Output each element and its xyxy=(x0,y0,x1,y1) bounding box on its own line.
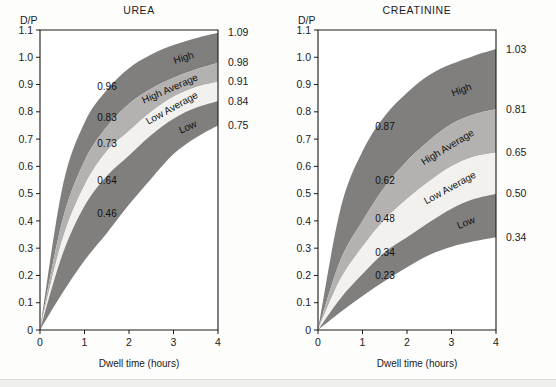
page-bottom-strip xyxy=(0,379,556,387)
svg-text:0.2: 0.2 xyxy=(18,269,33,281)
svg-text:0.8: 0.8 xyxy=(18,105,33,117)
chart-panel-creatinine: CREATININE D/P 1.11.00.90.80.70.60.50.40… xyxy=(278,0,556,386)
x-axis-title-urea: Dwell time (hours) xyxy=(0,358,278,369)
svg-text:0.6: 0.6 xyxy=(18,160,33,172)
svg-text:0.9: 0.9 xyxy=(18,78,33,90)
svg-text:0.75: 0.75 xyxy=(228,119,249,131)
svg-text:0.3: 0.3 xyxy=(296,242,311,254)
svg-text:1.1: 1.1 xyxy=(18,24,33,36)
svg-text:0.8: 0.8 xyxy=(296,105,311,117)
x-axis-title-creatinine: Dwell time (hours) xyxy=(278,358,556,369)
svg-text:3: 3 xyxy=(171,336,177,348)
svg-text:2: 2 xyxy=(404,336,410,348)
svg-text:0.4: 0.4 xyxy=(18,215,33,227)
svg-text:0.7: 0.7 xyxy=(18,133,33,145)
svg-text:0.6: 0.6 xyxy=(296,160,311,172)
svg-text:1: 1 xyxy=(82,336,88,348)
svg-text:0.50: 0.50 xyxy=(506,187,527,199)
svg-text:1.03: 1.03 xyxy=(506,43,527,55)
svg-text:0.34: 0.34 xyxy=(506,231,527,243)
svg-text:0: 0 xyxy=(37,336,43,348)
svg-text:0.96: 0.96 xyxy=(97,81,117,92)
svg-text:0.7: 0.7 xyxy=(296,133,311,145)
svg-text:0.4: 0.4 xyxy=(296,215,311,227)
chart-panel-urea: UREA D/P 1.11.00.90.80.70.60.50.40.30.20… xyxy=(0,0,278,386)
plot-area-creatinine: 1.11.00.90.80.70.60.50.40.30.20.10012341… xyxy=(278,0,556,386)
svg-text:0.62: 0.62 xyxy=(375,175,395,186)
svg-text:0.83: 0.83 xyxy=(97,112,117,123)
svg-text:0: 0 xyxy=(305,324,311,336)
svg-text:1.0: 1.0 xyxy=(296,51,311,63)
svg-text:0.87: 0.87 xyxy=(375,121,395,132)
svg-text:0.23: 0.23 xyxy=(375,270,395,281)
svg-text:0.81: 0.81 xyxy=(506,103,527,115)
svg-text:1.09: 1.09 xyxy=(228,26,249,38)
svg-text:0.84: 0.84 xyxy=(228,95,249,107)
svg-text:4: 4 xyxy=(493,336,499,348)
svg-text:0: 0 xyxy=(315,336,321,348)
svg-text:0.64: 0.64 xyxy=(97,175,117,186)
svg-text:0.34: 0.34 xyxy=(375,247,395,258)
svg-text:4: 4 xyxy=(215,336,221,348)
svg-text:0.46: 0.46 xyxy=(97,208,117,219)
svg-text:1.1: 1.1 xyxy=(296,24,311,36)
svg-text:0.9: 0.9 xyxy=(296,78,311,90)
svg-text:3: 3 xyxy=(449,336,455,348)
svg-text:2: 2 xyxy=(126,336,132,348)
svg-text:0: 0 xyxy=(27,324,33,336)
svg-text:1: 1 xyxy=(360,336,366,348)
svg-text:0.1: 0.1 xyxy=(18,296,33,308)
svg-text:0.1: 0.1 xyxy=(296,296,311,308)
svg-text:0.5: 0.5 xyxy=(296,187,311,199)
svg-text:0.48: 0.48 xyxy=(375,213,395,224)
svg-text:0.65: 0.65 xyxy=(506,146,527,158)
svg-text:0.73: 0.73 xyxy=(97,138,117,149)
svg-text:0.2: 0.2 xyxy=(296,269,311,281)
svg-text:0.3: 0.3 xyxy=(18,242,33,254)
svg-text:0.5: 0.5 xyxy=(18,187,33,199)
svg-text:0.98: 0.98 xyxy=(228,56,249,68)
plot-area-urea: 1.11.00.90.80.70.60.50.40.30.20.10012341… xyxy=(0,0,278,386)
svg-text:1.0: 1.0 xyxy=(18,51,33,63)
svg-text:0.91: 0.91 xyxy=(228,75,249,87)
